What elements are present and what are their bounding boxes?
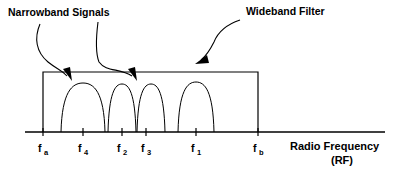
wideband-filter-leader-arrow [195,20,240,64]
wideband-filter-passband [43,72,258,132]
axis-tick-labels: f a f 4 f 2 f 3 f 1 f b [38,142,264,157]
signal-lobe-f3 [137,84,165,132]
tick-label-f4-sub: 4 [84,148,89,157]
tick-label-fb-sub: b [259,148,264,157]
signal-lobe-f2 [108,84,136,132]
tick-label-f4-base: f [78,142,82,154]
rf-spectrum-diagram: Narrowband Signals Wideband Filter [0,0,399,175]
narrowband-signals-label: Narrowband Signals [8,6,110,18]
tick-label-f3-base: f [141,142,145,154]
tick-label-fa-base: f [38,142,42,154]
tick-label-f1-base: f [191,142,195,154]
tick-label-f2-base: f [117,142,121,154]
axis-title-line2: (RF) [331,154,353,166]
arrowhead-icon [195,55,209,64]
wideband-filter-label: Wideband Filter [246,5,325,17]
signal-lobe-f1 [178,82,214,132]
tick-label-f1-sub: 1 [197,148,201,157]
axis-title-line1: Radio Frequency [290,140,380,152]
tick-label-fa-sub: a [44,148,49,157]
tick-label-fb-base: f [253,142,257,154]
signal-lobe-f4 [61,83,105,132]
tick-label-f2-sub: 2 [123,148,127,157]
tick-label-f3-sub: 3 [147,148,151,157]
